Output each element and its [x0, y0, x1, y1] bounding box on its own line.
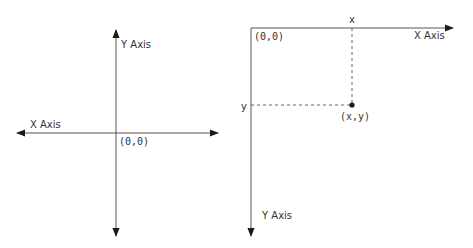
point-label: (x,y): [340, 111, 370, 122]
y-marker-label: y: [241, 101, 247, 112]
cartesian-origin-label: (0,0): [119, 136, 149, 147]
screen-diagram: (0,0) X Axis Y Axis x y (x,y): [241, 14, 453, 236]
coordinate-systems-diagram: Y Axis X Axis (0,0) (0,0) X Axis Y Axis …: [0, 0, 473, 248]
screen-origin-label: (0,0): [254, 31, 284, 42]
cartesian-diagram: Y Axis X Axis (0,0): [17, 30, 218, 236]
cartesian-y-axis-label: Y Axis: [120, 39, 151, 50]
point-marker: [349, 102, 354, 107]
screen-x-axis-label: X Axis: [414, 30, 445, 41]
screen-y-axis-label: Y Axis: [261, 210, 292, 221]
x-marker-label: x: [349, 14, 355, 25]
cartesian-x-axis-label: X Axis: [30, 119, 61, 130]
